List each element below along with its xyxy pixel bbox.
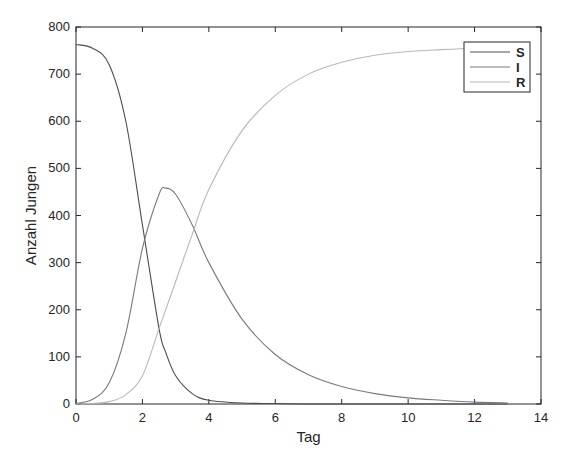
x-tick-label: 4 [205,410,212,425]
y-axis-label: Anzahl Jungen [22,166,39,265]
legend-label-s: S [516,45,525,60]
y-tick-label: 500 [48,160,70,175]
y-tick-label: 200 [48,302,70,317]
y-tick-label: 600 [48,113,70,128]
y-tick-label: 0 [63,396,70,411]
x-tick-label: 10 [401,410,415,425]
y-tick-label: 800 [48,19,70,34]
x-axis-label: Tag [296,428,320,445]
x-tick-label: 14 [534,410,548,425]
x-tick-label: 8 [338,410,345,425]
legend-label-r: R [516,75,526,90]
legend-label-i: I [516,60,520,75]
x-tick-label: 2 [139,410,146,425]
x-tick-label: 12 [467,410,481,425]
y-tick-label: 400 [48,208,70,223]
y-tick-label: 100 [48,349,70,364]
y-tick-label: 700 [48,66,70,81]
x-tick-label: 6 [272,410,279,425]
y-tick-label: 300 [48,255,70,270]
sir-chart: 024681012140100200300400500600700800TagA… [0,0,574,476]
x-tick-label: 0 [72,410,79,425]
